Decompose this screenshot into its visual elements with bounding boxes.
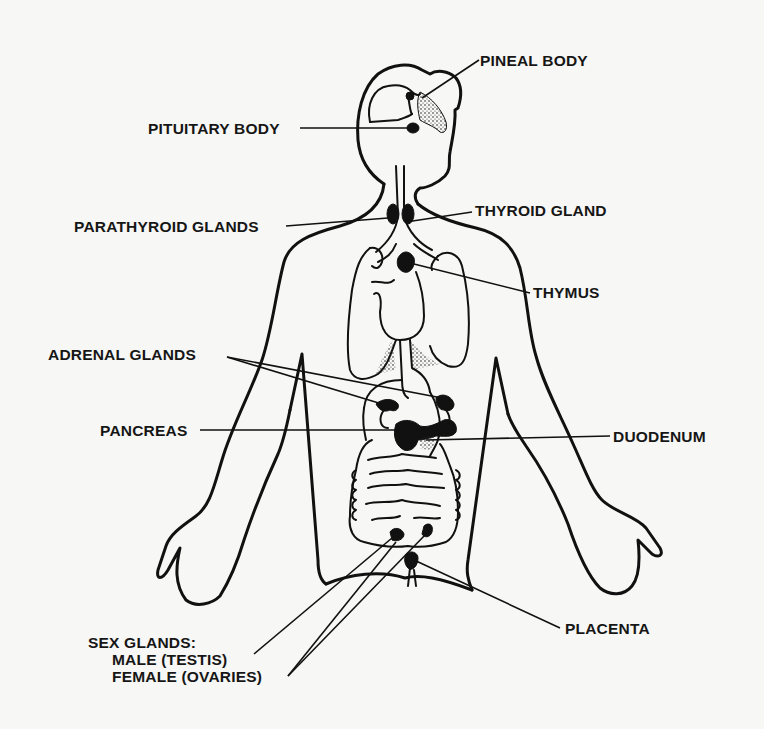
label-duodenum: DUODENUM [613, 428, 706, 445]
leader-pineal [422, 60, 479, 98]
label-pituitary-body: PITUITARY BODY [148, 120, 280, 137]
thyroid-left-lobe [387, 204, 399, 224]
pineal-gland [406, 92, 414, 100]
heart [372, 272, 440, 374]
label-pineal-body: PINEAL BODY [480, 52, 588, 69]
leader-lines [200, 60, 610, 676]
leader-ovary-right [288, 534, 426, 676]
label-adrenal-glands: ADRENAL GLANDS [48, 346, 196, 363]
label-sex-glands-female: FEMALE (OVARIES) [88, 668, 262, 685]
label-parathyroid-glands: PARATHYROID GLANDS [74, 218, 259, 235]
label-pancreas: PANCREAS [100, 422, 187, 439]
label-thymus: THYMUS [533, 284, 600, 301]
intestines [350, 440, 460, 547]
leader-testis [254, 538, 392, 654]
leader-thymus [414, 264, 530, 293]
thymus-gland [397, 252, 414, 272]
pituitary-gland [407, 123, 419, 133]
endocrine-diagram: PINEAL BODY PITUITARY BODY THYROID GLAND… [0, 0, 764, 729]
pancreas [394, 420, 456, 451]
head-outline [358, 65, 461, 204]
lungs [348, 216, 469, 379]
leader-adrenal-right [227, 357, 442, 398]
label-sex-glands: SEX GLANDS: MALE (TESTIS) FEMALE (OVARIE… [88, 634, 262, 685]
label-thyroid-gland: THYROID GLAND [475, 202, 607, 219]
leader-thyroid [406, 212, 472, 222]
label-sex-glands-title: SEX GLANDS: [88, 634, 196, 651]
label-sex-glands-male: MALE (TESTIS) [88, 651, 262, 668]
leader-parathyroid [286, 218, 388, 226]
torso-outline [158, 184, 662, 604]
leader-placenta [414, 560, 560, 628]
label-placenta: PLACENTA [565, 620, 650, 637]
leader-ovary-left [288, 542, 396, 676]
